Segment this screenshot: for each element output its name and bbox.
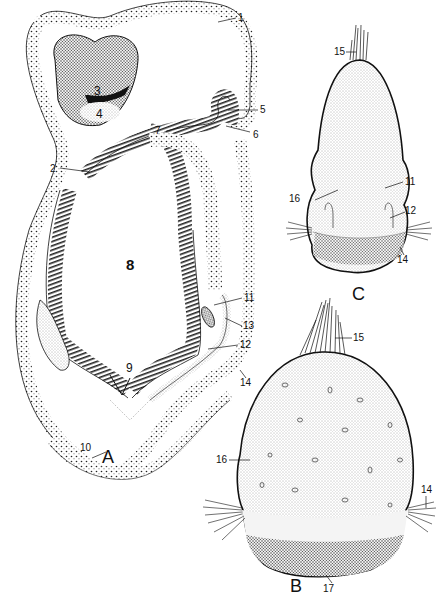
label-c-14: 14	[397, 255, 408, 265]
panel-label-b: B	[290, 577, 302, 595]
label-b-17: 17	[323, 584, 334, 594]
label-c-12: 12	[405, 206, 416, 216]
label-c-11: 11	[405, 177, 415, 187]
label-a-13: 13	[243, 321, 254, 331]
label-b-16: 16	[216, 455, 227, 465]
label-a-7: 7	[155, 126, 161, 136]
panel-label-a: A	[102, 448, 114, 466]
label-a-5: 5	[260, 105, 266, 115]
label-b-14: 14	[421, 485, 432, 495]
label-a-4: 4	[96, 109, 103, 119]
label-c-15: 15	[334, 47, 345, 57]
panel-a-section	[16, 1, 258, 479]
label-a-1: 1	[238, 13, 244, 23]
label-a-3: 3	[94, 86, 101, 96]
label-a-10: 10	[80, 443, 91, 453]
label-a-9: 9	[126, 363, 133, 373]
label-b-15: 15	[353, 333, 364, 343]
label-a-6: 6	[253, 130, 259, 140]
label-a-14: 14	[240, 378, 251, 388]
label-a-11: 11	[244, 293, 254, 303]
label-c-16: 16	[289, 194, 300, 204]
panel-b-larva	[203, 298, 436, 583]
label-a-2: 2	[50, 164, 56, 174]
label-a-8: 8	[126, 256, 134, 273]
panel-c-larva	[286, 25, 432, 273]
larva-illustration	[0, 0, 439, 605]
label-a-12: 12	[240, 340, 251, 350]
panel-label-c: C	[352, 285, 365, 303]
